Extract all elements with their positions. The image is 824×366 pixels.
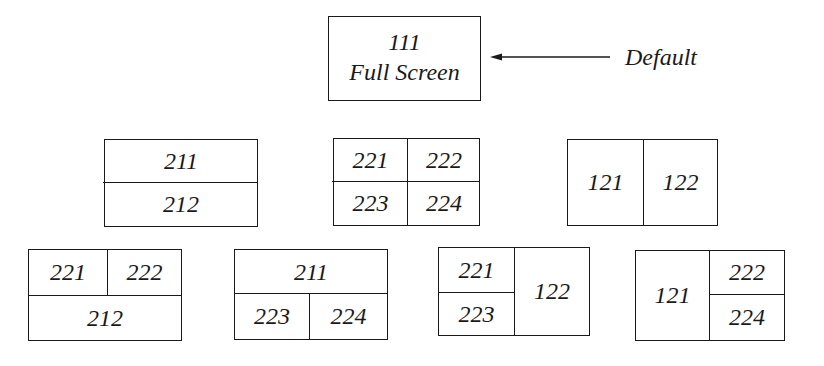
cell-212: 212	[105, 183, 257, 226]
cell-211: 211	[235, 250, 387, 294]
layout-221-222-212: 221 222 212	[28, 249, 182, 341]
cell-222: 222	[108, 250, 181, 295]
cell-223: 223	[334, 182, 407, 225]
layout-121-122: 121 122	[567, 139, 718, 226]
cell-224: 224	[710, 295, 784, 340]
cell-222: 222	[408, 139, 480, 182]
layout-quad: 221 222 223 224	[333, 138, 480, 226]
cell-221: 221	[29, 250, 107, 295]
cell-121: 121	[568, 140, 643, 225]
arrow-left-icon	[488, 50, 612, 64]
cell-223: 223	[439, 293, 514, 335]
layout-121-222-224: 121 222 224	[635, 250, 785, 341]
layout-211-212: 211 212	[104, 139, 258, 227]
cell-221: 221	[334, 139, 407, 182]
cell-224: 224	[310, 294, 387, 339]
divider	[332, 181, 479, 182]
layout-label: Full Screen	[329, 57, 480, 87]
cell-224: 224	[408, 182, 480, 225]
cell-223: 223	[235, 294, 309, 339]
cell-121: 121	[636, 251, 709, 340]
cell-122: 122	[644, 140, 717, 225]
divider	[407, 139, 408, 225]
layout-code: 111	[329, 27, 480, 57]
layout-111-full-screen: 111 Full Screen	[328, 16, 481, 101]
cell-212: 212	[29, 296, 181, 340]
cell-222: 222	[710, 251, 784, 294]
default-label: Default	[625, 44, 697, 71]
layout-211-223-224: 211 223 224	[234, 249, 388, 340]
cell-122: 122	[515, 248, 589, 335]
layout-221-223-122: 221 223 122	[438, 247, 590, 336]
cell-211: 211	[105, 140, 257, 183]
cell-221: 221	[439, 248, 514, 292]
